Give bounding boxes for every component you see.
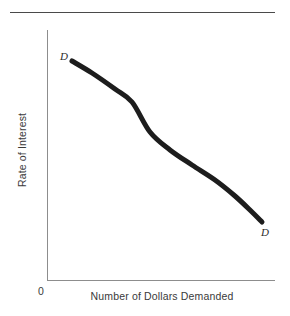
top-divider-rule: [10, 12, 275, 13]
demand-curve-figure: Rate of Interest Number of Dollars Deman…: [0, 0, 290, 316]
demand-curve-path: [72, 61, 262, 222]
curve-label-bottom: D: [261, 226, 269, 238]
origin-tick-label: 0: [38, 285, 44, 297]
x-axis-title: Number of Dollars Demanded: [48, 290, 276, 302]
x-axis-line: [47, 280, 275, 281]
y-axis-line: [47, 30, 48, 280]
demand-curve-layer: [0, 0, 290, 316]
y-axis-title: Rate of Interest: [16, 113, 28, 187]
curve-label-top: D: [60, 50, 68, 62]
